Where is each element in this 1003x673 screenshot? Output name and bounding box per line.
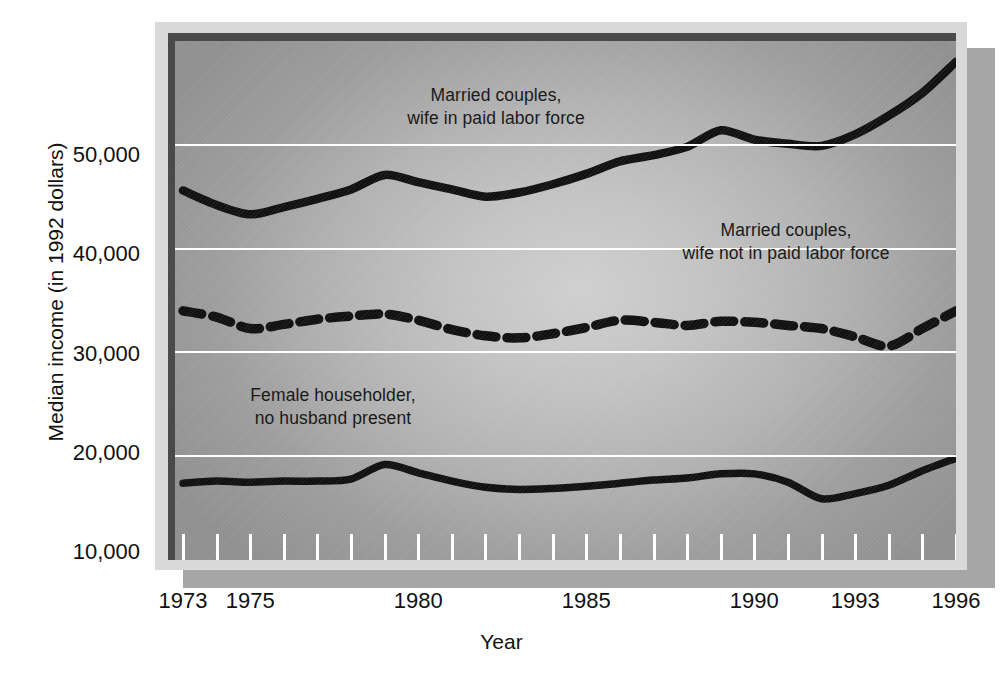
x-minor-tick — [518, 534, 521, 560]
y-axis-title: Median income (in 1992 dollars) — [44, 82, 68, 502]
x-minor-tick — [821, 534, 824, 560]
x-minor-tick — [484, 534, 487, 560]
x-minor-tick — [451, 534, 454, 560]
x-minor-tick — [384, 534, 387, 560]
x-tick-label: 1985 — [562, 588, 611, 614]
x-minor-tick — [753, 534, 756, 560]
x-minor-tick — [888, 534, 891, 560]
annotation-married-wife-not-in-labor-force: Married couples, wife not in paid labor … — [621, 219, 951, 265]
x-minor-tick — [216, 534, 219, 560]
x-minor-tick — [182, 534, 185, 560]
series-line — [183, 311, 956, 346]
x-axis-title: Year — [0, 630, 1003, 654]
x-minor-tick — [350, 534, 353, 560]
x-minor-tick — [955, 534, 956, 560]
x-minor-tick — [585, 534, 588, 560]
x-minor-tick — [854, 534, 857, 560]
x-minor-tick — [417, 534, 420, 560]
x-minor-tick — [552, 534, 555, 560]
x-tick-label: 1980 — [394, 588, 443, 614]
x-minor-tick — [653, 534, 656, 560]
series-line — [183, 458, 956, 499]
annotation-married-wife-in-labor-force: Married couples, wife in paid labor forc… — [331, 84, 661, 130]
x-minor-tick — [249, 534, 252, 560]
x-minor-tick — [921, 534, 924, 560]
y-axis-title-wrapper: Median income (in 1992 dollars) — [14, 0, 44, 673]
x-minor-tick — [787, 534, 790, 560]
gridline — [175, 144, 956, 146]
gridline — [175, 351, 956, 353]
x-axis-tick-labels: 1973197519801985199019931996 — [0, 588, 1003, 618]
x-tick-label: 1990 — [730, 588, 779, 614]
x-minor-tick — [316, 534, 319, 560]
x-minor-tick — [720, 534, 723, 560]
x-tick-label: 1993 — [831, 588, 880, 614]
x-minor-tick — [686, 534, 689, 560]
gridline — [175, 455, 956, 457]
x-minor-tick — [619, 534, 622, 560]
figure-root: 50,000 40,000 30,000 20,000 10,000 Media… — [0, 0, 1003, 673]
x-tick-label: 1973 — [159, 588, 208, 614]
x-tick-label: 1996 — [932, 588, 981, 614]
annotation-female-householder: Female householder, no husband present — [173, 384, 493, 430]
x-tick-label: 1975 — [226, 588, 275, 614]
x-minor-tick — [283, 534, 286, 560]
